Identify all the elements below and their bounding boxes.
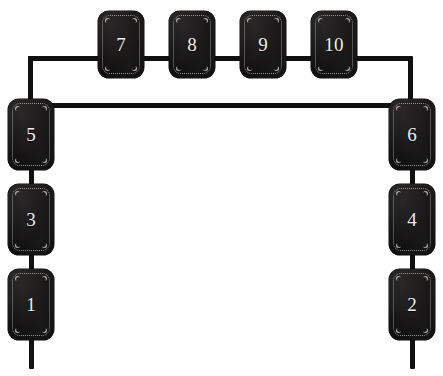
plate-number-label: 2 bbox=[389, 269, 435, 340]
connector-tail-2 bbox=[410, 336, 415, 369]
plate-number-label: 9 bbox=[240, 11, 286, 78]
plate-8[interactable]: 8 bbox=[169, 11, 215, 78]
plate-2[interactable]: 2 bbox=[389, 269, 435, 340]
plate-number-label: 1 bbox=[8, 269, 54, 340]
plate-1[interactable]: 1 bbox=[8, 269, 54, 340]
plate-10[interactable]: 10 bbox=[311, 11, 357, 78]
plate-7[interactable]: 7 bbox=[98, 11, 144, 78]
plate-5[interactable]: 5 bbox=[8, 99, 54, 170]
plate-number-label: 3 bbox=[8, 184, 54, 255]
plate-3[interactable]: 3 bbox=[8, 184, 54, 255]
plate-6[interactable]: 6 bbox=[389, 99, 435, 170]
diagram-canvas: 78910531642 bbox=[0, 0, 443, 376]
plate-number-label: 6 bbox=[389, 99, 435, 170]
plate-number-label: 7 bbox=[98, 11, 144, 78]
plate-9[interactable]: 9 bbox=[240, 11, 286, 78]
connector-mid-rail bbox=[50, 103, 394, 108]
plate-number-label: 4 bbox=[389, 184, 435, 255]
plate-number-label: 10 bbox=[311, 11, 357, 78]
plate-4[interactable]: 4 bbox=[389, 184, 435, 255]
plate-number-label: 5 bbox=[8, 99, 54, 170]
connector-tail-1 bbox=[29, 336, 34, 369]
plate-number-label: 8 bbox=[169, 11, 215, 78]
